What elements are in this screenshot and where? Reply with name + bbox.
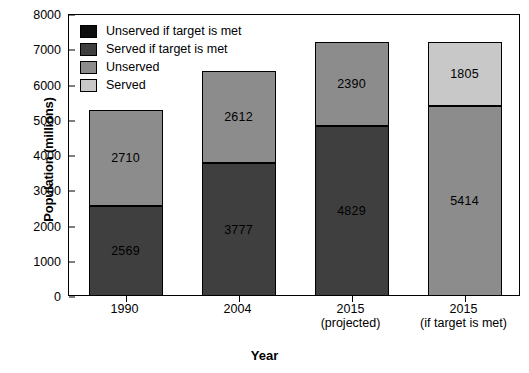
bar-segment[interactable]: 4829	[315, 126, 389, 296]
y-tick-mark	[69, 297, 75, 298]
x-tick-label-year: 2015	[420, 302, 507, 316]
bar-segment[interactable]: 2569	[89, 206, 163, 297]
x-axis-title: Year	[0, 348, 529, 363]
y-tick-label: 5000	[33, 114, 69, 128]
legend-swatch-icon	[80, 79, 97, 92]
bar-segment-value: 3777	[224, 224, 253, 237]
bar-segment[interactable]: 2710	[89, 110, 163, 206]
x-tick-label: 1990	[111, 302, 139, 316]
bar-segment[interactable]: 3777	[202, 163, 276, 296]
x-tick-label: 2004	[224, 302, 252, 316]
legend-label: Served if target is met	[106, 42, 228, 56]
legend-item[interactable]: Unserved	[80, 59, 241, 75]
x-tick-mark	[352, 295, 353, 302]
bar-segment[interactable]: 5414	[428, 106, 502, 297]
x-tick-label-sublabel: (projected)	[321, 316, 381, 330]
y-tick-label: 0	[54, 290, 69, 304]
y-tick-label: 2000	[33, 220, 69, 234]
bar-segment-value: 4829	[337, 205, 366, 218]
y-tick-label: 6000	[33, 79, 69, 93]
y-tick-label: 4000	[33, 149, 69, 163]
y-tick-label: 8000	[33, 8, 69, 22]
bar-segment-value: 5414	[450, 195, 479, 208]
stacked-bar-chart-figure: Population (millions) 010002000300040005…	[0, 0, 529, 373]
x-tick-mark	[239, 295, 240, 302]
legend-swatch-icon	[80, 25, 97, 38]
bar-segment-value: 2569	[111, 245, 140, 258]
legend-swatch-icon	[80, 43, 97, 56]
bar-stack[interactable]: 27102569	[89, 109, 163, 295]
x-tick-label: 2015(if target is met)	[420, 302, 507, 330]
x-tick-mark	[465, 295, 466, 302]
y-tick-label: 3000	[33, 184, 69, 198]
legend-item[interactable]: Served	[80, 77, 241, 93]
y-tick-label: 7000	[33, 43, 69, 57]
bar-stack[interactable]: 18055414	[428, 41, 502, 295]
x-tick-label-year: 1990	[111, 302, 139, 316]
bar-segment[interactable]: 1805	[428, 42, 502, 106]
plot-area: 010002000300040005000600070008000 271025…	[68, 14, 520, 296]
bar-stack[interactable]: 26123777	[202, 70, 276, 295]
bar-segment-value: 2390	[337, 78, 366, 91]
legend-swatch-icon	[80, 61, 97, 74]
x-tick-label-sublabel: (if target is met)	[420, 316, 507, 330]
bar-segment[interactable]: 2390	[315, 42, 389, 126]
legend-label: Served	[106, 78, 146, 92]
bar-segment-value: 1805	[450, 68, 479, 81]
x-tick-label-year: 2004	[224, 302, 252, 316]
x-tick-label: 2015(projected)	[321, 302, 381, 330]
legend-item[interactable]: Unserved if target is met	[80, 23, 241, 39]
legend-label: Unserved	[106, 60, 160, 74]
bar-segment-value: 2710	[111, 152, 140, 165]
x-tick-mark	[126, 295, 127, 302]
bar-stack[interactable]: 23904829	[315, 41, 389, 295]
legend-label: Unserved if target is met	[106, 24, 241, 38]
y-tick-label: 1000	[33, 255, 69, 269]
chart-legend: Unserved if target is metServed if targe…	[80, 23, 241, 93]
x-tick-label-year: 2015	[321, 302, 381, 316]
bar-segment-value: 2612	[224, 111, 253, 124]
legend-item[interactable]: Served if target is met	[80, 41, 241, 57]
